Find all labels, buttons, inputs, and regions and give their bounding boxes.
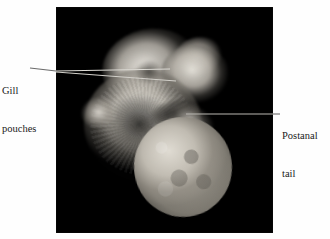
embryo-trunk-shadow bbox=[96, 87, 181, 169]
embryo-forebrain-vesicle bbox=[153, 37, 239, 118]
embryo-postanal-tail-region bbox=[161, 95, 223, 148]
label-gill-pouches-line2: pouches bbox=[2, 123, 36, 136]
embryo-yolk-sac bbox=[128, 111, 239, 224]
embryo-somite-banding bbox=[85, 72, 199, 180]
embryo-optic-cup bbox=[134, 59, 164, 85]
embryo-midbrain-lobe bbox=[172, 34, 228, 83]
embryo-figure: Gill pouches Postanal tail bbox=[0, 0, 330, 239]
label-gill-pouches: Gill pouches bbox=[2, 60, 36, 160]
label-postanal-tail-line2: tail bbox=[282, 168, 318, 181]
label-postanal-tail-line1: Postanal bbox=[282, 130, 318, 143]
embryo-limb-bud bbox=[75, 92, 122, 137]
panel-border bbox=[56, 7, 273, 233]
embryo-tail-tip-region bbox=[97, 41, 168, 101]
embryo-yolk-sac-texture bbox=[132, 117, 231, 216]
label-gill-pouches-line1: Gill bbox=[2, 85, 36, 98]
label-postanal-tail: Postanal tail bbox=[282, 105, 318, 205]
embryo-trunk bbox=[78, 63, 207, 187]
embryo-mandibular-arch bbox=[145, 93, 205, 135]
embryo-photograph-panel bbox=[56, 7, 273, 233]
embryo-head-region bbox=[95, 20, 205, 114]
